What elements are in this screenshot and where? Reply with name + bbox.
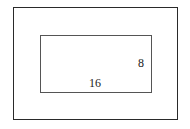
inner-width-label: 16 [89,77,101,89]
diagram-canvas: 8 16 [0,0,190,129]
inner-height-label: 8 [138,57,144,69]
